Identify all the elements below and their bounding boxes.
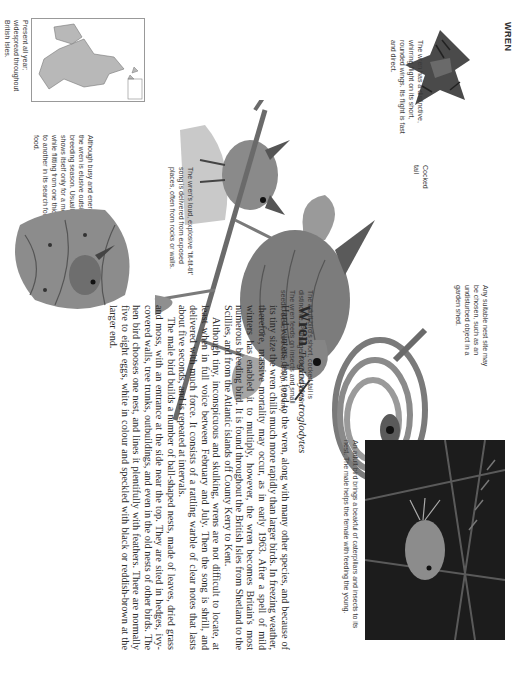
article-paragraph: Although tiny, inconspicuous and skulkin… — [177, 305, 223, 650]
common-name: Wren — [295, 305, 314, 346]
distribution-map — [31, 18, 145, 102]
article-paragraph: The male bird builds a number of ball-sh… — [108, 305, 176, 650]
caption-cocked-tail: Cocked tail — [412, 165, 430, 195]
book-page: WREN The wren has a distinctive, whirrin… — [0, 0, 525, 674]
fern-photo-illustration — [365, 440, 505, 640]
caption-nest-site: Any suitable nest site may be chosen, su… — [454, 285, 490, 370]
running-head: WREN — [503, 22, 513, 52]
article-title: WrenTroglodytes troglodytes — [297, 305, 310, 650]
article: WrenTroglodytes troglodytes Hard winters… — [108, 305, 310, 650]
british-isles-map-icon — [32, 19, 144, 101]
caption-photo: An adult bird brings a beakful of caterp… — [342, 440, 360, 640]
article-paragraph: Hard winters deny food to the wren, alon… — [222, 305, 290, 650]
caption-distribution: Present all year; widespread throughout … — [3, 20, 30, 100]
wren-nest-photo — [365, 440, 505, 640]
latin-name: Troglodytes troglodytes — [297, 350, 309, 453]
